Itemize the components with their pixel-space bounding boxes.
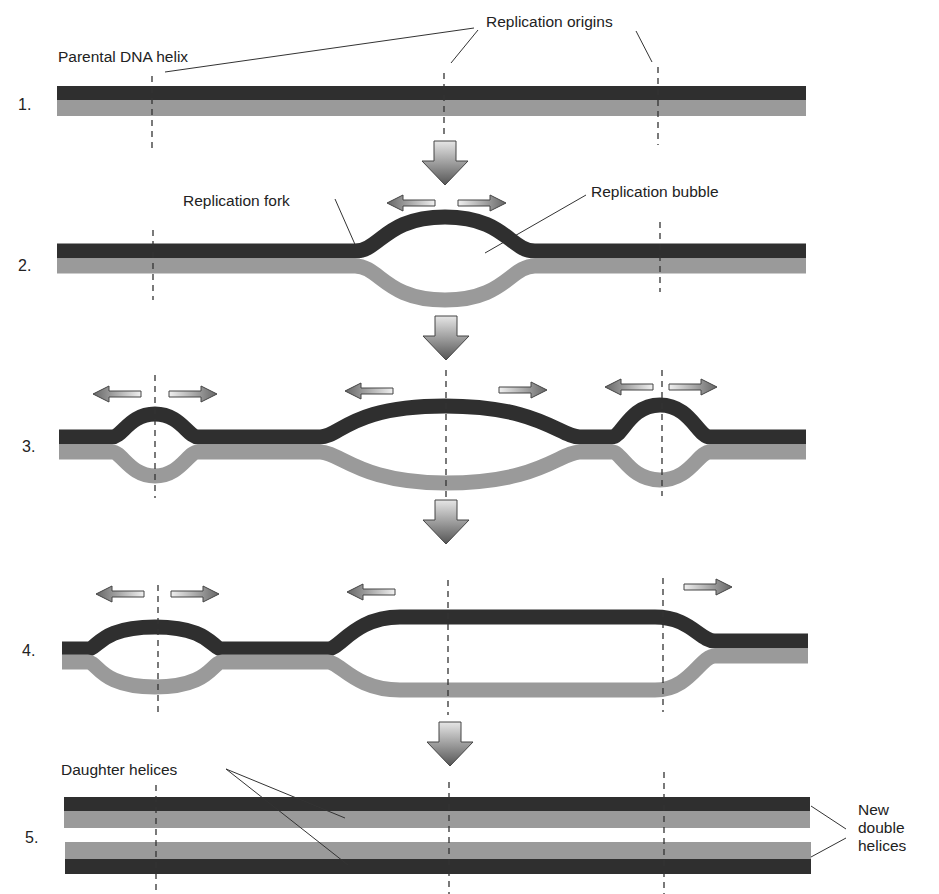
- step-arrow-icon: [423, 316, 469, 360]
- fork-direction-left-icon: [345, 383, 393, 399]
- parental-strand: [57, 217, 806, 251]
- fork-direction-left-icon: [347, 584, 395, 600]
- new-strand: [62, 656, 808, 690]
- leader-line: [451, 30, 478, 63]
- leader-line: [636, 31, 652, 62]
- fork-direction-right-icon: [669, 379, 717, 395]
- replication-origins-label: Replication origins: [486, 13, 613, 30]
- parental-strand: [65, 859, 811, 874]
- fork-direction-left-icon: [605, 379, 653, 395]
- replication-fork-label: Replication fork: [183, 192, 290, 209]
- parental-dna-helix-label: Parental DNA helix: [58, 48, 188, 65]
- step-number: 1.: [18, 96, 31, 113]
- step-arrow-icon: [427, 722, 473, 766]
- fork-direction-right-icon: [684, 579, 732, 595]
- new-strand: [59, 452, 806, 483]
- step-4: 4.: [22, 578, 808, 715]
- new-double-helices-label: helices: [858, 837, 906, 854]
- fork-direction-left-icon: [387, 195, 435, 211]
- step-1: 1.: [18, 67, 806, 150]
- new-strand: [57, 266, 806, 300]
- leader-line: [811, 806, 846, 829]
- fork-direction-right-icon: [171, 586, 219, 602]
- fork-direction-right-icon: [458, 195, 506, 211]
- step-number: 3.: [22, 438, 35, 455]
- leader-line: [811, 838, 846, 857]
- step-arrow-icon: [423, 500, 469, 544]
- new-double-helices-label: double: [858, 819, 905, 836]
- fork-direction-left-icon: [93, 386, 141, 402]
- new-strand: [65, 842, 811, 859]
- parental-strand: [59, 405, 806, 437]
- parental-strand: [62, 617, 808, 649]
- step-2: 2. Replication fork Replication bubble: [18, 183, 806, 300]
- fork-direction-left-icon: [96, 586, 144, 602]
- step-3: 3.: [22, 370, 806, 500]
- step-number: 4.: [22, 642, 35, 659]
- dna-replication-diagram: Parental DNA helix Replication origins 1…: [0, 0, 939, 894]
- parental-strand: [64, 797, 810, 811]
- fork-direction-right-icon: [499, 382, 547, 398]
- step-number: 5.: [25, 829, 38, 846]
- step-arrow-icon: [422, 141, 468, 185]
- fork-direction-right-icon: [169, 386, 217, 402]
- step-number: 2.: [18, 257, 31, 274]
- parental-strand-light: [57, 100, 806, 116]
- replication-bubble-label: Replication bubble: [591, 183, 719, 200]
- step-5: 5. Daughter helices New double helices: [25, 761, 906, 894]
- new-double-helices-label: New: [858, 801, 890, 818]
- daughter-helices-label: Daughter helices: [61, 761, 178, 778]
- new-strand: [64, 811, 810, 828]
- parental-strand: [57, 86, 806, 100]
- leader-line: [165, 28, 474, 72]
